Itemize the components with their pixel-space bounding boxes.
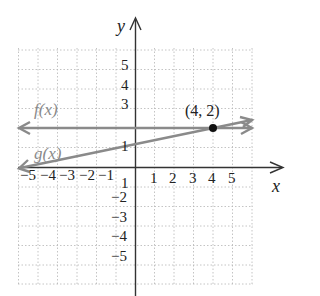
y-tick-3: 3 (121, 97, 129, 112)
y-tick-neg3: −3 (111, 210, 127, 225)
x-tick-neg1: −1 (98, 168, 114, 183)
y-tick-5: 5 (121, 58, 129, 73)
x-tick-neg5: −5 (20, 168, 36, 183)
x-tick-neg3: −3 (59, 168, 75, 183)
x-tick-4: 4 (208, 171, 216, 186)
y-tick-4: 4 (121, 78, 129, 93)
f-label: f(x) (34, 101, 58, 118)
intersection-point (209, 124, 217, 132)
y-tick-neg4: −4 (111, 229, 127, 244)
x-tick-neg2: −2 (79, 168, 95, 183)
y-tick-1: 1 (121, 139, 129, 154)
x-tick-5: 5 (228, 171, 236, 186)
y-tick-neg1-one: 1 (121, 176, 129, 191)
x-tick-2: 2 (169, 171, 177, 186)
y-tick-neg2: −2 (111, 190, 127, 205)
x-axis-label: x (272, 177, 280, 195)
intersection-label: (4, 2) (185, 103, 220, 119)
x-tick-1: 1 (150, 171, 158, 186)
g-label: g(x) (34, 145, 61, 162)
x-tick-neg4: −4 (40, 168, 56, 183)
y-axis-label: y (117, 17, 125, 35)
x-tick-3: 3 (189, 171, 197, 186)
y-tick-neg5: −5 (111, 249, 127, 264)
